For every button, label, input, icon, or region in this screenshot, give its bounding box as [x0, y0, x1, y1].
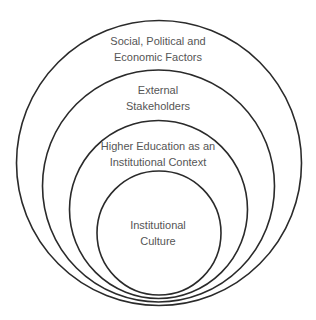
label-line: Culture	[0, 233, 316, 249]
label-higher-education-context: Higher Education as an Institutional Con…	[0, 138, 316, 170]
label-line: Economic Factors	[0, 49, 316, 65]
label-institutional-culture: Institutional Culture	[0, 217, 316, 249]
label-line: Higher Education as an	[0, 138, 316, 154]
label-line: External	[0, 82, 316, 98]
label-line: Stakeholders	[0, 98, 316, 114]
label-external-stakeholders: External Stakeholders	[0, 82, 316, 114]
label-line: Social, Political and	[0, 33, 316, 49]
label-line: Institutional Context	[0, 154, 316, 170]
label-social-political-economic: Social, Political and Economic Factors	[0, 33, 316, 65]
label-line: Institutional	[0, 217, 316, 233]
